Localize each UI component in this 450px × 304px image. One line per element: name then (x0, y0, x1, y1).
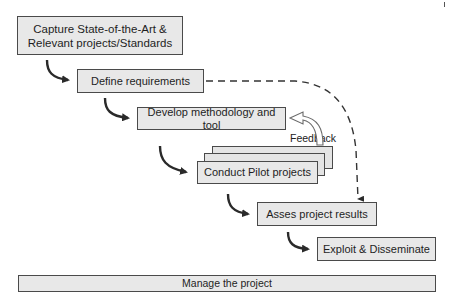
step-define-label: Define requirements (91, 75, 190, 88)
step-define-requirements: Define requirements (77, 69, 204, 93)
step-assess-label: Asses project results (266, 208, 367, 221)
step-develop-methodology: Develop methodology and tool (137, 107, 286, 130)
manage-label: Manage the project (182, 277, 272, 290)
flow-arrow-assess-to-exploit (288, 232, 308, 249)
step-conduct-label: Conduct Pilot projects (204, 166, 311, 179)
flow-arrow-capture-to-define (47, 60, 68, 80)
flow-arrow-develop-to-conduct (160, 146, 186, 172)
flow-arrow-conduct-to-assess (228, 194, 248, 214)
step-conduct-pilot-projects: Conduct Pilot projects (197, 161, 318, 184)
manage-project-bar: Manage the project (18, 275, 436, 292)
step-capture-line2: Relevant projects/Standards (28, 36, 172, 50)
flow-arrow-define-to-develop (105, 98, 128, 118)
step-assess-results: Asses project results (257, 202, 377, 226)
step-capture-state-of-the-art: Capture State-of-the-Art & Relevant proj… (17, 16, 183, 55)
step-capture-line1: Capture State-of-the-Art & (33, 22, 167, 36)
step-exploit-label: Exploit & Disseminate (323, 243, 430, 256)
step-exploit-disseminate: Exploit & Disseminate (317, 237, 436, 261)
step-develop-label: Develop methodology and tool (138, 106, 285, 132)
feedback-label: Feedback (290, 132, 336, 144)
corner-mark (444, 2, 445, 7)
